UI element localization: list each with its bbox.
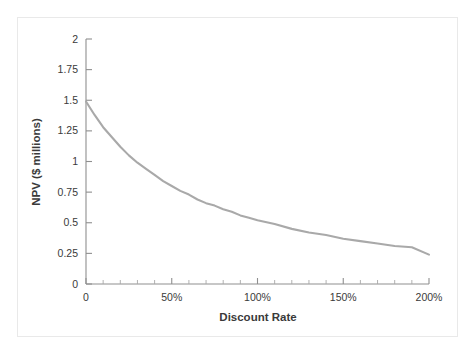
figure-container: 00.250.50.7511.251.51.752 050%100%150%20… bbox=[0, 0, 476, 354]
y-tick-label: 0.5 bbox=[63, 216, 78, 228]
x-axis-tick-labels: 050%100%150%200% bbox=[83, 291, 442, 303]
y-tick-label: 0.75 bbox=[58, 186, 79, 198]
npv-discount-rate-chart: 00.250.50.7511.251.51.752 050%100%150%20… bbox=[18, 18, 459, 338]
x-axis-title: Discount Rate bbox=[219, 311, 296, 323]
y-axis-title: NPV ($ millions) bbox=[30, 118, 42, 206]
y-tick-label: 1 bbox=[72, 155, 78, 167]
y-tick-label: 0.25 bbox=[58, 247, 79, 259]
y-tick-label: 1.25 bbox=[58, 124, 79, 136]
chart-frame: 00.250.50.7511.251.51.752 050%100%150%20… bbox=[17, 17, 458, 337]
x-tick-label: 150% bbox=[330, 291, 357, 303]
x-tick-label: 200% bbox=[416, 291, 443, 303]
y-tick-label: 0 bbox=[72, 278, 78, 290]
y-tick-label: 1.5 bbox=[63, 94, 78, 106]
x-tick-label: 0 bbox=[83, 291, 89, 303]
y-tick-label: 1.75 bbox=[58, 63, 79, 75]
y-axis-tick-labels: 00.250.50.7511.251.51.752 bbox=[58, 33, 79, 290]
x-tick-label: 50% bbox=[161, 291, 182, 303]
y-tick-label: 2 bbox=[72, 33, 78, 45]
y-axis-ticks bbox=[86, 39, 92, 284]
x-tick-label: 100% bbox=[244, 291, 271, 303]
npv-curve bbox=[86, 101, 429, 254]
